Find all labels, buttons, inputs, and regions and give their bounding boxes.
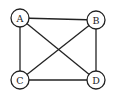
node-d-label: D <box>92 75 100 86</box>
node-c-label: C <box>16 75 23 86</box>
edges <box>20 18 96 80</box>
node-a-label: A <box>16 13 24 24</box>
node-b-label: B <box>93 15 100 26</box>
graph-diagram: A B C D <box>0 0 113 94</box>
edge-a-b <box>20 18 96 20</box>
node-a: A <box>11 9 29 27</box>
node-b: B <box>87 11 105 29</box>
node-d: D <box>87 71 105 89</box>
node-c: C <box>11 71 29 89</box>
